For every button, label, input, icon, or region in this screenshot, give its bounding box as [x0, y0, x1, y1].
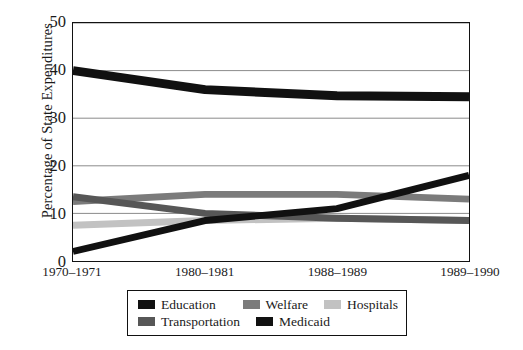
series-line-education	[73, 71, 469, 97]
x-tick-label-2: 1988–1989	[277, 265, 397, 280]
legend-item-welfare[interactable]: Welfare	[243, 298, 324, 312]
legend-item-transportation[interactable]: Transportation	[138, 315, 256, 329]
legend-label-hospitals: Hospitals	[347, 298, 398, 312]
y-tick-label-20: 20	[4, 158, 66, 175]
legend-label-transportation: Transportation	[161, 315, 240, 329]
y-tick-label-50: 50	[4, 14, 66, 31]
legend-swatch-medicaid	[256, 317, 273, 326]
series-canvas	[73, 23, 469, 261]
y-tick-label-10: 10	[4, 206, 66, 223]
legend-row-1: Education Welfare Hospitals	[138, 296, 398, 313]
legend-item-medicaid[interactable]: Medicaid	[256, 315, 330, 329]
legend-label-welfare: Welfare	[266, 298, 308, 312]
legend-item-hospitals[interactable]: Hospitals	[324, 298, 398, 312]
legend-swatch-transportation	[138, 317, 155, 326]
legend-swatch-welfare	[243, 300, 260, 309]
chart-legend: Education Welfare Hospitals Transportati…	[127, 290, 407, 336]
legend-swatch-education	[138, 300, 155, 309]
x-tick-label-3: 1989–1990	[410, 265, 523, 280]
legend-row-2: Transportation Medicaid	[138, 313, 398, 330]
chart-figure: Percentage of State Expenditures 5040302…	[0, 0, 523, 350]
y-tick-label-40: 40	[4, 62, 66, 79]
series-line-welfare	[73, 194, 469, 201]
legend-label-education: Education	[161, 298, 216, 312]
x-tick-label-0: 1970–1971	[12, 265, 132, 280]
plot-area	[72, 22, 470, 262]
x-axis-tick-labels: 1970–19711980–19811988–19891989–1990	[72, 265, 470, 287]
legend-swatch-hospitals	[324, 300, 341, 309]
y-tick-label-30: 30	[4, 110, 66, 127]
x-tick-label-1: 1980–1981	[145, 265, 265, 280]
y-axis-tick-labels: 50403020100	[0, 22, 66, 262]
legend-item-education[interactable]: Education	[138, 298, 243, 312]
legend-label-medicaid: Medicaid	[279, 315, 330, 329]
